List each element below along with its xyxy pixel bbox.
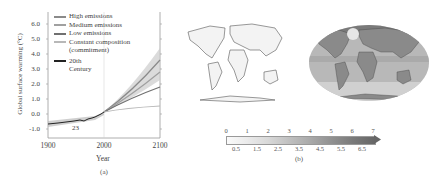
colorbar-minor-tick: 6.5 <box>358 145 366 152</box>
colorbar-tick: 1 <box>245 127 248 134</box>
legend-label: High emissions <box>69 12 112 21</box>
legend-swatch <box>54 41 66 43</box>
world-map-left <box>180 20 290 105</box>
world-map-right <box>305 22 435 104</box>
colorbar-tick: 4 <box>308 127 311 134</box>
legend-swatch <box>54 24 66 26</box>
y-tick: 2.0 <box>20 80 40 88</box>
x-tick: 2100 <box>153 141 168 150</box>
x-axis-label: Year <box>96 154 110 163</box>
chart-annotation: 23 <box>72 124 79 132</box>
colorbar-minor-tick: 4.5 <box>316 145 324 152</box>
legend-swatch <box>54 60 66 62</box>
colorbar-arrow-icon <box>374 135 382 144</box>
colorbar-tick: 6 <box>350 127 353 134</box>
y-tick: 4.0 <box>20 50 40 58</box>
legend-label: Medium emissions <box>69 21 122 30</box>
legend-item-low: Low emissions <box>54 29 130 38</box>
legend-item-high: High emissions <box>54 12 130 21</box>
legend-swatch <box>54 33 66 35</box>
colorbar-tick: 5 <box>329 127 332 134</box>
legend-label: Low emissions <box>69 29 111 38</box>
colorbar-minor-tick: 0.5 <box>232 145 240 152</box>
y-tick: 5.0 <box>20 35 40 43</box>
colorbar-minor-tick: 1.5 <box>253 145 261 152</box>
colorbar-minor-tick: 5.5 <box>337 145 345 152</box>
y-tick: 0.0 <box>20 110 40 118</box>
colorbar-tick: 2 <box>266 127 269 134</box>
x-tick: 1900 <box>41 141 56 150</box>
y-tick: 1.0 <box>20 95 40 103</box>
legend-item-20th-century: 20thCentury <box>54 57 130 74</box>
colorbar-minor-tick: 2.5 <box>274 145 282 152</box>
colorbar-tick: 3 <box>287 127 290 134</box>
legend-item-constant: Constant composition(commitment) <box>54 38 130 55</box>
legend: High emissions Medium emissions Low emis… <box>54 12 130 74</box>
panel-a-caption: (a) <box>100 168 108 176</box>
colorbar-tick: 0 <box>224 127 227 134</box>
colorbar <box>226 136 376 145</box>
panel-b-caption: (b) <box>295 155 303 163</box>
legend-label: Constant composition(commitment) <box>69 38 130 55</box>
legend-label: 20thCentury <box>69 57 92 74</box>
colorbar-minor-tick: 3.5 <box>295 145 303 152</box>
legend-item-medium: Medium emissions <box>54 21 130 30</box>
y-tick: 6.0 <box>20 20 40 28</box>
x-tick: 2000 <box>97 141 112 150</box>
colorbar-tick: 7 <box>371 127 374 134</box>
y-tick: 3.0 <box>20 65 40 73</box>
y-tick: -1.0 <box>20 125 40 133</box>
legend-swatch <box>54 16 66 18</box>
